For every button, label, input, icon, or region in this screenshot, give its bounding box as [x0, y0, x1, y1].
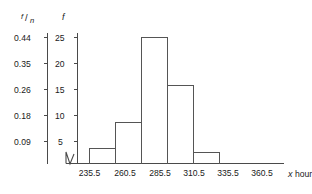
x-axis-unit: hours	[295, 169, 312, 179]
x-tick-label-285.5: 285.5	[149, 168, 171, 178]
bar-235.5-260.5	[90, 149, 116, 164]
x-tick-label-260.5: 260.5	[114, 168, 136, 178]
x-tick-label-235.5: 235.5	[79, 168, 101, 178]
left-tick-label-1: 0.09	[14, 137, 31, 147]
left-axis-title-denominator: n	[30, 16, 34, 25]
right-tick-label-10: 10	[55, 111, 65, 121]
left-y-axis	[44, 33, 48, 164]
axis-break-icon	[66, 152, 74, 164]
left-tick-label-2: 0.18	[14, 111, 31, 121]
left-tick-label-3: 0.26	[14, 85, 31, 95]
right-y-axis	[74, 33, 78, 164]
right-tick-label-20: 20	[55, 59, 65, 69]
right-axis-title: f	[62, 12, 66, 22]
left-axis-title-numerator: f	[21, 12, 24, 21]
left-tick-label-4: 0.35	[14, 59, 31, 69]
left-axis-title: f / n	[21, 12, 34, 25]
bars-group	[90, 38, 220, 164]
bar-285.5-310.5	[142, 38, 168, 164]
bar-260.5-285.5	[116, 123, 142, 164]
right-tick-label-15: 15	[55, 85, 65, 95]
right-tick-label-5: 5	[58, 137, 63, 147]
bar-310.5-335.5	[168, 86, 194, 164]
bar-335.5-360.5	[194, 153, 220, 164]
histogram-chart: f / n 0.44 0.35 0.26 0.18 0.09 f 25 20 1…	[0, 0, 312, 194]
x-tick-label-360.5: 360.5	[251, 168, 273, 178]
right-tick-label-25: 25	[55, 33, 65, 43]
x-axis-symbol: x	[287, 169, 293, 179]
chart-canvas: f / n 0.44 0.35 0.26 0.18 0.09 f 25 20 1…	[0, 0, 312, 194]
left-tick-label-5: 0.44	[14, 33, 31, 43]
x-tick-label-310.5: 310.5	[183, 168, 205, 178]
left-axis-title-slash: /	[25, 12, 28, 23]
x-tick-label-335.5: 335.5	[217, 168, 239, 178]
